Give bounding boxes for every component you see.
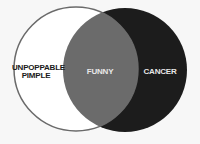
label-funny: FUNNY	[80, 68, 120, 76]
label-cancer: CANCER	[140, 68, 180, 76]
label-unpoppable-pimple: UNPOPPABLE PIMPLE	[12, 64, 60, 80]
label-line-2: PIMPLE	[12, 72, 60, 80]
